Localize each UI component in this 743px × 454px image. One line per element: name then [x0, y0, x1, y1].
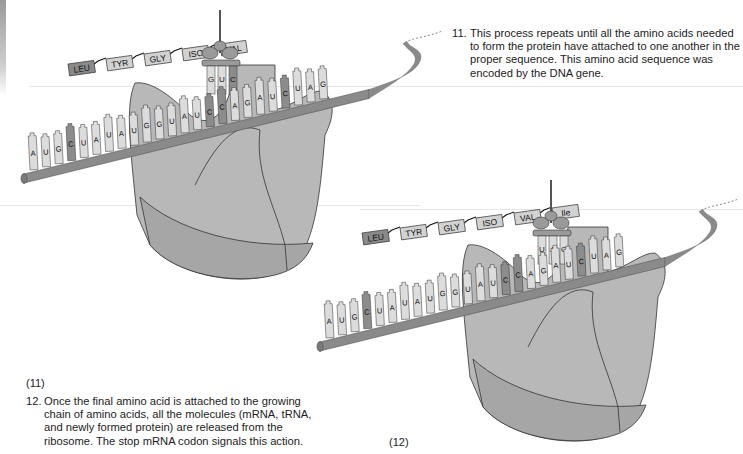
caption-line: proper sequence. This amino acid sequenc… [470, 53, 742, 66]
mrna-base-u: U [564, 246, 574, 279]
nucleotide-letter: U [490, 279, 496, 288]
mrna-base-u: U [400, 282, 410, 319]
mrna-base-a: A [387, 289, 397, 322]
trna-loop [545, 211, 557, 221]
peptide-bond [388, 227, 400, 233]
mrna-base-a: A [412, 283, 422, 316]
nucleotide-letter: A [326, 317, 331, 326]
nucleotide-letter: C [503, 275, 509, 284]
nucleotide-letter: C [578, 257, 584, 266]
peptide-bond [426, 222, 438, 228]
caption-line: This process repeats until all the amino… [470, 27, 742, 40]
nucleotide-letter: U [566, 260, 572, 269]
nucleotide-letter: U [591, 252, 597, 261]
mrna-base-g: G [538, 252, 548, 285]
mrna-base-u: U [337, 302, 347, 335]
mrna-base-g: G [450, 274, 460, 307]
caption-line: encoded by the DNA gene. [470, 67, 742, 80]
caption-line: to form the protein have attached to one… [470, 40, 742, 53]
mrna-base-c: C [513, 254, 523, 291]
nucleotide-letter: G [439, 289, 445, 298]
mrna-base-a: A [475, 264, 485, 301]
step-number: 12. [26, 395, 42, 408]
mrna-base-a: A [526, 255, 536, 288]
trna-arm [533, 230, 571, 236]
mrna-base-a: A [601, 237, 611, 270]
nucleotide-letter: U [465, 285, 471, 294]
amino-acid-label: ISO [482, 217, 498, 229]
mrna-base-u: U [463, 271, 473, 304]
nucleotide-letter: G [616, 248, 622, 257]
nucleotide-letter: A [415, 297, 420, 306]
nucleotide-letter: G [452, 288, 458, 297]
mrna-tail-dashed [701, 199, 737, 210]
mrna-base-a: A [324, 301, 334, 338]
nucleotide-letter: U [402, 298, 408, 307]
nucleotide-letter: G [351, 312, 357, 321]
mrna-base-g: G [349, 298, 359, 331]
mrna-base-g: G [437, 273, 447, 310]
mrna-base-c: C [576, 243, 586, 276]
figure-12-label: (12) [389, 436, 409, 448]
mrna-base-c: C [362, 291, 372, 328]
nucleotide-letter: C [515, 270, 521, 279]
mrna-base-u: U [488, 264, 498, 297]
amino-acid-gly: GLY [438, 219, 465, 235]
nucleotide-letter: U [339, 316, 345, 325]
step-number: 11. [452, 27, 467, 40]
nucleotide-letter: A [604, 251, 609, 260]
nucleotide-letter: U [377, 306, 383, 315]
mrna-base-a: A [551, 245, 561, 282]
mrna-base-u: U [375, 292, 385, 325]
amino-acid-leu: LEU [362, 229, 389, 245]
nucleotide-letter: G [540, 266, 546, 275]
mrna-tail [665, 209, 717, 266]
caption-line: chain of amino acids, all the molecules … [44, 408, 316, 421]
peptide-bond [502, 212, 514, 218]
figure-group: LEUTYRGLYISOVALIleUAGAUGCUAUAUGGUAUCCAGA… [317, 180, 737, 441]
figure-11-label: (11) [26, 377, 45, 389]
nucleotide-letter: U [427, 294, 433, 303]
caption-line: Once the final amino acid is attached to… [44, 395, 316, 408]
step-11-caption: 11. This process repeats until all the a… [452, 27, 742, 80]
mrna-strand-end [317, 342, 323, 352]
nucleotide-letter: A [389, 303, 394, 312]
amino-acid-tyr: TYR [400, 224, 427, 240]
step-12-caption: 12. Once the final amino acid is attache… [26, 395, 316, 448]
nucleotide-letter: A [553, 261, 558, 270]
amino-acid-iso: ISO [476, 214, 503, 230]
mrna-base-g: G [614, 234, 624, 267]
mrna-base-u: U [425, 280, 435, 313]
peptide-bond [464, 217, 476, 223]
nucleotide-letter: A [478, 280, 483, 289]
mrna-base-u: U [589, 236, 599, 273]
amino-acid-label: Ile [561, 207, 572, 218]
caption-line: ribosome. The stop mRNA codon signals th… [44, 435, 316, 448]
caption-line: and newly formed protein) are released f… [44, 421, 316, 434]
mrna-base-c: C [501, 261, 511, 294]
nucleotide-letter: A [528, 269, 533, 278]
